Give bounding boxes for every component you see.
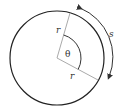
- label-radius-top: r: [56, 26, 60, 35]
- radius-line-bottom: [57, 58, 98, 80]
- label-arc-length: s: [109, 30, 114, 39]
- label-radius-bottom: r: [70, 72, 74, 81]
- arc-length-arrow: [80, 8, 113, 77]
- arc-length-diagram: r θ r s: [0, 0, 116, 108]
- label-angle-theta: θ: [65, 50, 70, 59]
- diagram-canvas: [0, 0, 116, 108]
